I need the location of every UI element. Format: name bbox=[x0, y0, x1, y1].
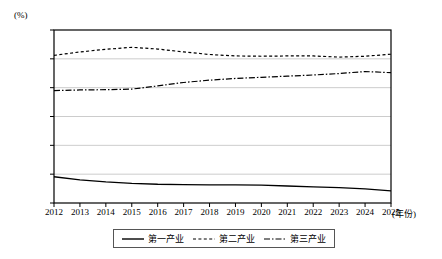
x-axis-tick-label: 2014 bbox=[97, 207, 115, 217]
x-axis-tick-label: 2017 bbox=[175, 207, 193, 217]
chart-legend: 第一产业 第二产业 第三产业 bbox=[113, 229, 335, 248]
line-chart: (%) 010.0020.0030.0040.0050.0060.00 2012… bbox=[0, 0, 442, 259]
legend-swatch-solid-icon bbox=[122, 235, 144, 243]
x-axis-tick-label: 2024 bbox=[356, 207, 374, 217]
x-axis-tick-label: 2012 bbox=[45, 207, 63, 217]
series-line-2 bbox=[54, 47, 391, 57]
legend-swatch-dashdot-icon bbox=[264, 235, 286, 243]
x-axis-tick-label: 2023 bbox=[330, 207, 348, 217]
legend-swatch-dotted-icon bbox=[193, 235, 215, 243]
legend-label-series-3: 第三产业 bbox=[290, 232, 326, 245]
legend-item-series-3: 第三产业 bbox=[264, 232, 326, 245]
x-axis-tick-label: 2020 bbox=[252, 207, 270, 217]
x-axis-title: (年份) bbox=[392, 207, 416, 220]
legend-label-series-2: 第二产业 bbox=[219, 232, 255, 245]
legend-label-series-1: 第一产业 bbox=[148, 232, 184, 245]
x-axis-tick-label: 2016 bbox=[149, 207, 167, 217]
legend-item-series-1: 第一产业 bbox=[122, 232, 184, 245]
plot-area bbox=[0, 0, 442, 259]
y-axis-tick-labels: 010.0020.0030.0040.0050.0060.00 bbox=[0, 0, 50, 259]
x-axis-tick-label: 2013 bbox=[71, 207, 89, 217]
x-axis-tick-label: 2019 bbox=[226, 207, 244, 217]
x-axis-tick-label: 2018 bbox=[201, 207, 219, 217]
x-axis-tick-label: 2015 bbox=[123, 207, 141, 217]
legend-item-series-2: 第二产业 bbox=[193, 232, 255, 245]
series-line-1 bbox=[54, 177, 391, 191]
x-axis-tick-label: 2022 bbox=[304, 207, 322, 217]
x-axis-tick-label: 2021 bbox=[278, 207, 296, 217]
